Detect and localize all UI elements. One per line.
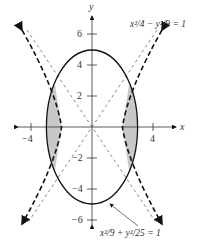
y-tick-label: −2 [72,153,83,163]
y-tick-label: 2 [77,91,82,101]
y-axis-label: y [89,2,93,12]
x-tick-label: −4 [22,134,33,144]
ellipse-label-pointer [110,204,138,226]
x-axis-label: x [180,122,184,132]
y-tick-label: −6 [72,215,83,225]
ellipse-equation-label: x²/9 + y²/25 = 1 [100,229,161,239]
y-tick-label: −4 [72,184,83,194]
y-tick-label: 4 [77,60,82,70]
hyperbola-equation-label: x²/4 − y²/9 = 1 [130,20,186,30]
x-tick-label: 4 [150,134,155,144]
y-tick-label: 6 [77,29,82,39]
figure: y x −4 4 6 4 2 −2 −4 −6 x²/4 − y²/9 = 1 … [0,0,197,241]
graph-canvas [0,0,197,241]
